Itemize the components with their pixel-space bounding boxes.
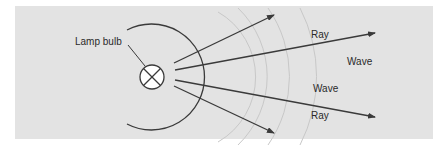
ray-label-top: Ray bbox=[311, 29, 329, 40]
ray-label-bottom: Ray bbox=[311, 110, 329, 121]
wave-label-right: Wave bbox=[347, 56, 373, 67]
diagram-panel bbox=[15, 6, 433, 139]
lamp-bulb-icon bbox=[140, 65, 164, 89]
light-ray-wave-diagram: Lamp bulb Ray Wave Wave Ray bbox=[0, 0, 438, 147]
wave-label-mid: Wave bbox=[313, 83, 339, 94]
lamp-bulb-label: Lamp bulb bbox=[75, 36, 122, 47]
